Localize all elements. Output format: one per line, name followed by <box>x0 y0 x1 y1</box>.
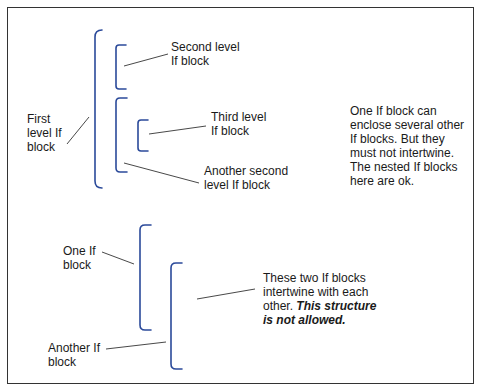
one-if-block-bracket-icon <box>140 225 151 330</box>
second-level-bracket-2-icon <box>116 98 127 172</box>
first-level-bracket-icon <box>95 30 102 188</box>
bracket-diagram <box>0 0 483 392</box>
another-if-block-bracket-icon <box>171 263 182 369</box>
note-line-3: other. This structure <box>263 299 376 313</box>
another-if-block-label: Another If block <box>48 341 100 369</box>
leader-intertwine-note <box>197 289 255 299</box>
leader-third-level <box>149 126 206 134</box>
leader-one-if-block <box>102 252 134 264</box>
leader-first-level <box>67 117 89 144</box>
second-level-1-label: Second level If block <box>171 40 240 68</box>
leader-second-level-1 <box>124 54 168 66</box>
first-level-label: First level If block <box>27 112 62 154</box>
third-level-bracket-icon <box>138 120 148 151</box>
nesting-rule-note: One If block can enclose several other I… <box>350 104 464 188</box>
second-level-2-label: Another second level If block <box>204 164 288 192</box>
intertwine-rule-note: These two If blocks intertwine with each… <box>263 271 376 327</box>
second-level-bracket-1-icon <box>116 45 126 89</box>
leader-second-level-2 <box>124 163 199 183</box>
one-if-block-label: One If block <box>63 244 96 272</box>
leader-another-if-block <box>106 342 166 349</box>
third-level-label: Third level If block <box>211 110 266 138</box>
